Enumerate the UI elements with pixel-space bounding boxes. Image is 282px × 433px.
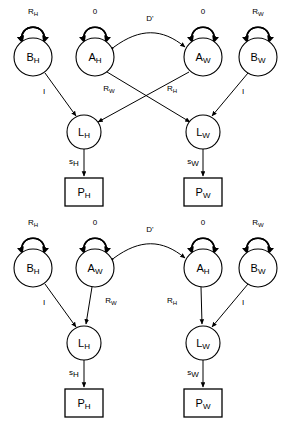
edge-bottom-bh-lh bbox=[45, 284, 76, 327]
self-loop-label-ah-top: 0 bbox=[93, 7, 98, 16]
edge-label-RW-top: RW bbox=[103, 84, 115, 94]
bottom-diagram: RH 0 0 RW D' I RW RH I bbox=[14, 218, 277, 417]
edge-top-bh-lh bbox=[45, 73, 76, 116]
edge-top-ah-lw bbox=[107, 72, 190, 122]
top-diagram: RH 0 0 RW D' I RW RH I bbox=[14, 7, 277, 206]
edge-top-aw-lh bbox=[98, 72, 189, 122]
edge-label-RH-bottom: RH bbox=[167, 296, 177, 306]
edge-label-I-top-left: I bbox=[43, 87, 45, 96]
edge-label-sW-top: sW bbox=[187, 157, 199, 168]
edge-label-sH-bottom: sH bbox=[69, 368, 79, 379]
path-diagram-svg: RH 0 0 RW D' I RW RH I bbox=[0, 0, 282, 433]
self-loop-label-bh-bottom: RH bbox=[28, 218, 38, 228]
edge-label-dprime-top: D' bbox=[146, 14, 154, 23]
edge-bottom-aw-ah-dprime bbox=[114, 244, 185, 258]
edge-label-I-bottom-left: I bbox=[43, 298, 45, 307]
edge-label-RH-top: RH bbox=[167, 84, 177, 94]
edge-bottom-aw-lh bbox=[86, 287, 92, 324]
edge-top-ah-aw-dprime bbox=[114, 33, 185, 47]
self-loop-label-bh-top: RH bbox=[28, 7, 38, 17]
edge-label-sW-bottom: sW bbox=[187, 368, 199, 379]
self-loop-label-aw-bottom: 0 bbox=[93, 218, 98, 227]
self-loop-label-bw-top: RW bbox=[252, 7, 264, 17]
diagram-canvas: RH 0 0 RW D' I RW RH I bbox=[0, 0, 282, 433]
self-loop-label-aw-top: 0 bbox=[201, 7, 206, 16]
self-loop-label-bw-bottom: RW bbox=[252, 218, 264, 228]
self-loop-label-ah-bottom: 0 bbox=[201, 218, 206, 227]
edge-bottom-ah-lw bbox=[201, 287, 202, 324]
edge-label-dprime-bottom: D' bbox=[146, 225, 154, 234]
edge-label-I-top-right: I bbox=[242, 87, 244, 96]
edge-label-sH-top: sH bbox=[69, 157, 79, 168]
edge-label-RW-bottom: RW bbox=[105, 296, 117, 306]
edge-label-I-bottom-right: I bbox=[242, 298, 244, 307]
